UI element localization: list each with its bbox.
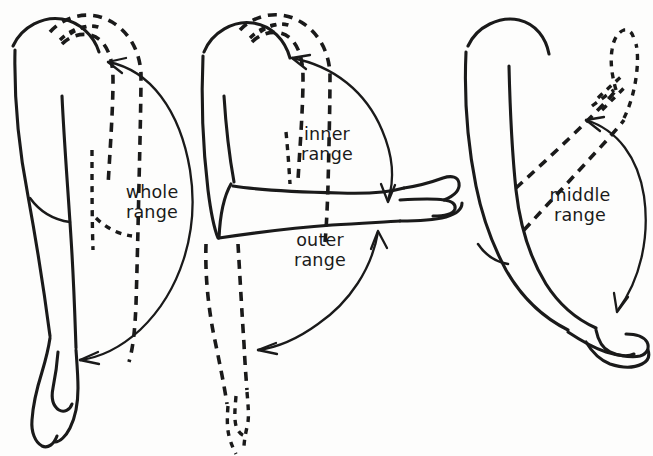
label-whole-range: whole range <box>104 182 200 223</box>
panel-whole-range <box>13 15 193 447</box>
middle-range-shoulder <box>468 19 549 54</box>
label-inner-range: inner range <box>284 124 370 165</box>
diagram-page: .solid { fill: none; stroke: #1a1a1a; st… <box>0 0 653 456</box>
whole-range-solid-arm <box>13 18 99 446</box>
label-outer-range: outer range <box>272 230 368 271</box>
outer-range-dashed-arm <box>206 244 249 454</box>
label-middle-range: middle range <box>532 185 628 226</box>
range-of-movement-illustration: .solid { fill: none; stroke: #1a1a1a; st… <box>0 0 653 456</box>
